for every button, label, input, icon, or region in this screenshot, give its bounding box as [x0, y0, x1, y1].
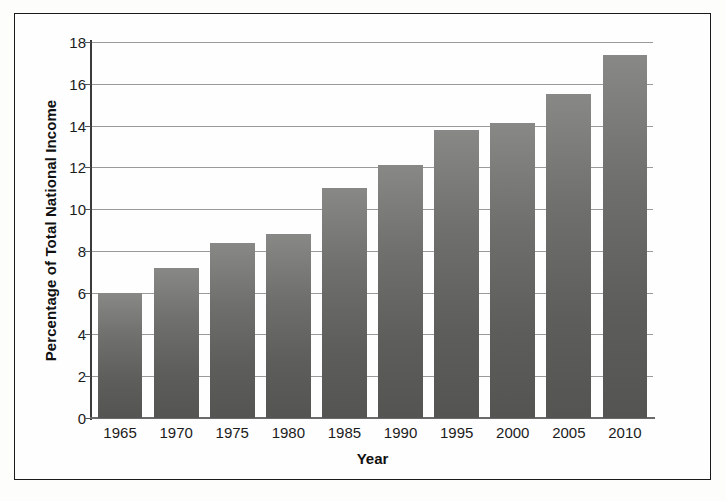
x-tick-label: 2010 — [608, 424, 641, 441]
bar — [154, 268, 199, 418]
y-tick-label: 18 — [52, 34, 86, 51]
plot-area — [92, 42, 653, 418]
bar — [378, 165, 423, 418]
y-tick-label: 8 — [52, 242, 86, 259]
gridline — [92, 42, 653, 43]
y-tick-mark — [85, 376, 91, 377]
x-tick-label: 1965 — [103, 424, 136, 441]
x-tick-label: 1970 — [159, 424, 192, 441]
y-tick-label: 10 — [52, 201, 86, 218]
x-tick-label: 2005 — [552, 424, 585, 441]
bar — [434, 130, 479, 418]
y-tick-label: 12 — [52, 159, 86, 176]
y-tick-mark — [85, 251, 91, 252]
y-tick-mark — [85, 126, 91, 127]
gridline — [92, 84, 653, 85]
bar — [490, 123, 535, 418]
x-tick-label: 1975 — [216, 424, 249, 441]
y-tick-label: 0 — [52, 410, 86, 427]
x-tick-label: 1980 — [272, 424, 305, 441]
y-tick-mark — [85, 418, 91, 419]
y-tick-mark — [85, 84, 91, 85]
y-tick-mark — [85, 42, 91, 43]
x-tick-label: 1995 — [440, 424, 473, 441]
y-tick-label: 2 — [52, 368, 86, 385]
x-axis-title: Year — [92, 450, 653, 467]
y-tick-mark — [85, 167, 91, 168]
x-tick-label: 1990 — [384, 424, 417, 441]
x-tick-label: 2000 — [496, 424, 529, 441]
y-tick-label: 16 — [52, 75, 86, 92]
y-axis-tick-labels: 024681012141618 — [44, 0, 86, 501]
y-tick-label: 4 — [52, 326, 86, 343]
y-tick-label: 14 — [52, 117, 86, 134]
y-tick-mark — [85, 334, 91, 335]
bar — [98, 293, 143, 418]
bar — [266, 234, 311, 418]
bar — [322, 188, 367, 418]
bar — [210, 243, 255, 418]
y-tick-label: 6 — [52, 284, 86, 301]
bar — [603, 55, 648, 418]
x-axis-tick-labels: 1965197019751980198519901995200020052010 — [92, 424, 653, 448]
chart-figure: Percentage of Total National Income 0246… — [0, 0, 726, 501]
y-tick-mark — [85, 293, 91, 294]
y-tick-mark — [85, 209, 91, 210]
bar — [546, 94, 591, 418]
x-tick-label: 1985 — [328, 424, 361, 441]
